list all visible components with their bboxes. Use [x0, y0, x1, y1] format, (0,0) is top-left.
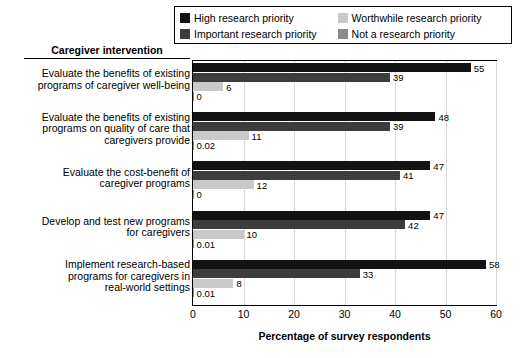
bar-value-label-2-series-2: 39 — [393, 122, 404, 131]
category-label-1: Evaluate the benefits of existingprogram… — [10, 68, 190, 91]
bar-value-label-3-series-4: 0 — [197, 190, 202, 199]
legend-swatch-important-research-priority — [180, 29, 190, 39]
bar-value-label-3-series-3: 12 — [257, 181, 268, 190]
x-axis-tick-60: 60 — [481, 308, 511, 320]
bar-4-series-4 — [193, 239, 194, 248]
x-axis-tick-30: 30 — [330, 308, 360, 320]
category-label-2-line-3: caregivers provide — [10, 135, 190, 147]
bar-group-3: 4741120 — [193, 161, 496, 199]
bar-value-label-1-series-4: 0 — [197, 92, 202, 101]
legend-swatch-worthwhile-research-priority — [338, 13, 348, 23]
bar-3-series-3 — [193, 180, 254, 189]
bar-value-label-5-series-4: 0.01 — [197, 289, 216, 298]
legend-label-worthwhile-research-priority: Worthwhile research priority — [352, 13, 482, 24]
legend-swatch-high-research-priority — [180, 13, 190, 23]
bar-value-label-2-series-3: 11 — [252, 132, 262, 141]
legend-row-1: High research priority Worthwhile resear… — [180, 10, 507, 26]
x-axis-tick-10: 10 — [229, 308, 259, 320]
bar-1-series-1 — [193, 63, 471, 72]
x-axis-label: Percentage of survey respondents — [192, 330, 497, 342]
legend-item-important-research-priority: Important research priority — [180, 29, 338, 40]
x-axis-tick-0: 0 — [178, 308, 208, 320]
bar-1-series-4 — [193, 92, 194, 101]
bar-value-label-4-series-2: 42 — [408, 221, 419, 230]
category-label-2-line-2: programs on quality of care that — [10, 123, 190, 135]
legend-item-high-research-priority: High research priority — [180, 13, 338, 24]
bar-2-series-2 — [193, 122, 390, 131]
bar-value-label-4-series-4: 0.01 — [197, 240, 216, 249]
legend-label-not-a-research-priority: Not a research priority — [352, 29, 455, 40]
category-label-1-line-2: programs of caregiver well-being — [10, 80, 190, 92]
bar-2-series-4 — [193, 141, 194, 150]
bar-value-label-1-series-3: 6 — [226, 83, 231, 92]
bar-group-2: 4839110.02 — [193, 112, 496, 150]
y-axis-header-rule — [24, 58, 190, 59]
bar-5-series-4 — [193, 288, 194, 297]
x-axis-tick-40: 40 — [380, 308, 410, 320]
chart-figure: High research priority Worthwhile resear… — [0, 0, 520, 358]
x-axis-tick-20: 20 — [279, 308, 309, 320]
bar-group-5: 583380.01 — [193, 260, 496, 298]
bar-group-1: 553960 — [193, 63, 496, 101]
bar-4-series-3 — [193, 230, 244, 239]
bar-value-label-3-series-1: 47 — [433, 162, 444, 171]
bar-value-label-4-series-1: 47 — [433, 211, 444, 220]
bar-3-series-1 — [193, 161, 430, 170]
bar-5-series-2 — [193, 269, 360, 278]
bar-4-series-1 — [193, 211, 430, 220]
category-label-5-line-3: real-world settings — [10, 282, 190, 294]
bar-1-series-2 — [193, 73, 390, 82]
category-label-4: Develop and test new programsfor caregiv… — [10, 216, 190, 239]
legend-label-important-research-priority: Important research priority — [194, 29, 317, 40]
bar-2-series-1 — [193, 112, 435, 121]
legend-item-not-a-research-priority: Not a research priority — [338, 29, 507, 40]
bar-value-label-5-series-3: 8 — [236, 279, 241, 288]
bar-4-series-2 — [193, 220, 405, 229]
category-label-4-line-2: for caregivers — [10, 227, 190, 239]
legend-swatch-not-a-research-priority — [338, 29, 348, 39]
bar-value-label-2-series-4: 0.02 — [197, 141, 216, 150]
bar-value-label-5-series-1: 58 — [489, 260, 500, 269]
x-axis-tick-50: 50 — [431, 308, 461, 320]
bar-value-label-5-series-2: 33 — [363, 270, 374, 279]
plot-area: 5539604839110.0247411204742100.01583380.… — [192, 60, 497, 306]
category-label-3-line-2: caregiver programs — [10, 178, 190, 190]
bar-value-label-2-series-1: 48 — [438, 113, 449, 122]
y-axis-header: Caregiver intervention — [24, 44, 190, 56]
bar-value-label-1-series-2: 39 — [393, 73, 404, 82]
bar-value-label-3-series-2: 41 — [403, 171, 414, 180]
chart-legend: High research priority Worthwhile resear… — [174, 6, 512, 44]
bar-3-series-4 — [193, 190, 194, 199]
bar-2-series-3 — [193, 131, 249, 140]
legend-item-worthwhile-research-priority: Worthwhile research priority — [338, 13, 507, 24]
bar-3-series-2 — [193, 171, 400, 180]
legend-row-2: Important research priority Not a resear… — [180, 26, 507, 42]
bar-group-4: 4742100.01 — [193, 211, 496, 249]
category-label-3: Evaluate the cost-benefit ofcaregiver pr… — [10, 167, 190, 190]
bar-value-label-4-series-3: 10 — [247, 230, 258, 239]
legend-label-high-research-priority: High research priority — [194, 13, 294, 24]
bar-5-series-3 — [193, 279, 233, 288]
category-label-2: Evaluate the benefits of existingprogram… — [10, 112, 190, 147]
category-label-5: Implement research-basedprograms for car… — [10, 259, 190, 294]
bar-1-series-3 — [193, 82, 223, 91]
bar-5-series-1 — [193, 260, 486, 269]
bar-value-label-1-series-1: 55 — [474, 64, 485, 73]
